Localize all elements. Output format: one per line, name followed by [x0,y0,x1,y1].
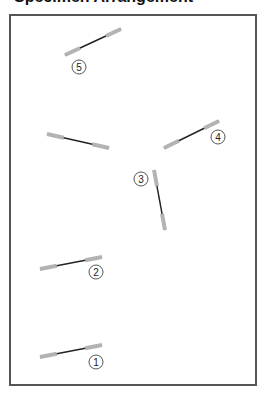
svg-text:5: 5 [76,62,82,73]
grip-end [204,121,219,128]
specimen-5: 5 [65,29,121,74]
grip-end [40,266,57,269]
specimen-1: 1 [40,345,103,369]
grip-end [162,214,165,230]
specimen-label-5: 5 [72,60,86,74]
grip-end [65,48,80,55]
specimen-label-2: 2 [89,265,103,279]
svg-text:4: 4 [215,132,221,143]
specimen-label-4: 4 [211,130,225,144]
grip-end [106,29,121,36]
specimen-3: 3 [134,170,165,230]
specimen-4: 4 [164,121,225,148]
specimen-canvas: 12345 [0,0,268,395]
grip-end [47,134,64,138]
specimen-label-1: 1 [89,355,103,369]
svg-text:3: 3 [138,174,144,185]
grip-end [85,257,102,260]
svg-text:2: 2 [93,267,99,278]
svg-text:1: 1 [93,357,99,368]
specimen-2: 2 [40,257,103,279]
grip-end [40,354,57,357]
specimen-label-3: 3 [134,172,148,186]
grip-end [164,141,179,148]
specimen-unlabeled [47,134,109,148]
grip-end [85,345,102,348]
grip-end [154,170,157,186]
grip-end [92,144,109,148]
